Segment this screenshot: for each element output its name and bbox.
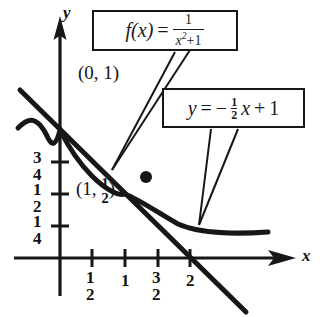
point-label-prefix: (1, — [76, 178, 101, 199]
y-tick-label-one-quarter: 1 4 — [33, 214, 42, 247]
x-tick-label-three-halves: 3 2 — [152, 270, 161, 303]
line-formula-relation: = — [201, 97, 212, 120]
math-figure: y x 3 4 1 2 1 4 1 2 1 3 2 2 (0, 1) — [0, 0, 322, 317]
point-label-suffix: ) — [109, 178, 115, 199]
curve-formula-lhs: f(x) — [126, 19, 154, 42]
line-formula-variable: x — [241, 97, 250, 120]
curve-formula-numerator: 1 — [182, 13, 195, 29]
x-tick-label-one: 1 — [121, 272, 130, 289]
point-label-fraction: 12 — [101, 176, 109, 205]
x-tick-label-one-half: 1 2 — [86, 270, 95, 303]
point-label-origin-one: (0, 1) — [78, 63, 119, 82]
tangency-point-marker — [140, 171, 152, 183]
curve-formula-fraction: 1 x2+1 — [173, 13, 205, 48]
x-tick-label-two: 2 — [186, 272, 195, 289]
x-axis-label: x — [302, 247, 311, 264]
line-formula-constant: 1 — [269, 97, 279, 120]
line-formula-sign: − — [216, 97, 227, 120]
line-formula-coefficient: 12 — [231, 96, 237, 121]
callout-curve-formula: f(x) = 1 x2+1 — [92, 10, 238, 51]
y-tick-label-one-half: 1 2 — [33, 182, 42, 215]
line-formula-operator: + — [254, 97, 265, 120]
line-formula-text: y = −12x + 1 — [188, 96, 280, 121]
curve-formula-denominator: x2+1 — [173, 29, 205, 48]
y-tick-label-three-quarters: 3 4 — [33, 150, 42, 183]
curve-formula-relation: = — [157, 19, 168, 42]
curve-formula-text: f(x) = 1 x2+1 — [126, 13, 205, 48]
line-formula-lhs: y — [188, 97, 197, 120]
point-label-one-half: (1, 12) — [76, 176, 115, 205]
y-axis-label: y — [63, 4, 71, 21]
callout-line-formula: y = −12x + 1 — [162, 88, 305, 128]
